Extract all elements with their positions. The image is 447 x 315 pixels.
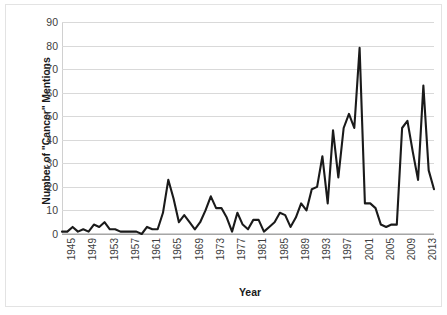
x-tick-label-1989: 1989 (300, 238, 311, 278)
x-tick-label-2009: 2009 (406, 238, 417, 278)
x-tick-label-1981: 1981 (257, 238, 268, 278)
x-tick-label-1953: 1953 (109, 238, 120, 278)
x-tick-label-1973: 1973 (215, 238, 226, 278)
series-path (62, 48, 434, 234)
x-tick-label-1969: 1969 (194, 238, 205, 278)
x-tick-label-2001: 2001 (364, 238, 375, 278)
y-tick-label-20: 20 (18, 181, 58, 193)
x-tick-label-2013: 2013 (427, 238, 438, 278)
y-tick-label-60: 60 (18, 87, 58, 99)
gridline-0 (62, 234, 434, 235)
x-tick-label-1965: 1965 (172, 238, 183, 278)
x-tick-label-2005: 2005 (385, 238, 396, 278)
series-line-chart (62, 22, 434, 234)
y-tick-label-80: 80 (18, 40, 58, 52)
x-tick-label-1949: 1949 (87, 238, 98, 278)
x-tick-label-1945: 1945 (66, 238, 77, 278)
y-tick-label-30: 30 (18, 157, 58, 169)
y-tick-label-70: 70 (18, 63, 58, 75)
x-axis-title: Year (60, 286, 440, 298)
x-tick-label-1985: 1985 (279, 238, 290, 278)
x-tick-label-1977: 1977 (236, 238, 247, 278)
chart-figure: Number of "Cancer" Mentions 010203040506… (0, 0, 447, 315)
y-tick-label-40: 40 (18, 134, 58, 146)
x-tick-label-1957: 1957 (130, 238, 141, 278)
y-tick-label-50: 50 (18, 110, 58, 122)
x-tick-label-1997: 1997 (342, 238, 353, 278)
y-tick-label-90: 90 (18, 16, 58, 28)
plot-area (62, 22, 434, 234)
y-tick-label-0: 0 (18, 228, 58, 240)
y-tick-label-10: 10 (18, 204, 58, 216)
x-tick-label-1993: 1993 (321, 238, 332, 278)
x-tick-label-1961: 1961 (151, 238, 162, 278)
